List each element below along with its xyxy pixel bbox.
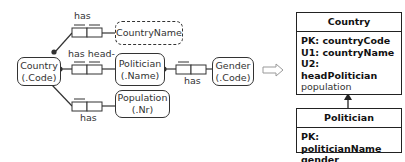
fact-reading-head: has head-	[68, 48, 115, 59]
table-country-row: U1: countryName	[301, 47, 397, 59]
value-type-countryname-label: CountryName	[116, 27, 182, 39]
entity-population-name: Population	[118, 92, 168, 104]
fact-reading-countryname: has	[74, 10, 91, 21]
entity-country-name: Country	[20, 60, 58, 72]
fact-reading-gender: has	[184, 75, 201, 86]
entity-country-ref: (.Code)	[22, 72, 57, 84]
entity-politician-name: Politician	[119, 58, 162, 70]
table-country-row: PK: countryCode	[301, 35, 397, 47]
table-country-row: population	[301, 81, 397, 93]
entity-gender-ref: (.Code)	[216, 72, 251, 84]
entity-politician: Politician (.Name)	[115, 53, 165, 86]
value-type-countryname: CountryName	[115, 21, 183, 45]
entity-politician-ref: (.Name)	[121, 70, 159, 82]
entity-population-ref: (.Nr)	[132, 104, 153, 116]
table-politician-title: Politician	[297, 109, 401, 128]
table-country-row: U2: headPolitician	[301, 58, 397, 81]
table-politician: Politician PK: politicianName gender	[296, 108, 402, 153]
fact-reading-population: has	[80, 112, 97, 123]
table-country: Country PK: countryCode U1: countryName …	[296, 12, 402, 95]
entity-population: Population (.Nr)	[115, 90, 170, 118]
table-politician-row: gender	[301, 154, 397, 162]
table-politician-row: PK: politicianName	[301, 131, 397, 154]
entity-country: Country (.Code)	[17, 57, 61, 86]
entity-gender: Gender (.Code)	[212, 57, 254, 86]
table-country-title: Country	[297, 13, 401, 32]
entity-gender-name: Gender	[215, 60, 250, 72]
